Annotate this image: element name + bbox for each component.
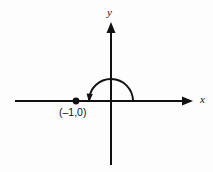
coordinate-plane-svg: x y (–1,0) xyxy=(0,0,213,172)
y-axis-label: y xyxy=(106,6,112,18)
x-axis-label: x xyxy=(199,93,205,105)
figure-container: x y (–1,0) xyxy=(0,0,213,172)
y-axis-arrow-icon xyxy=(107,22,116,33)
point-coordinate-label: (–1,0) xyxy=(59,106,86,118)
data-point-marker xyxy=(73,98,80,105)
x-axis-arrow-icon xyxy=(182,97,193,106)
